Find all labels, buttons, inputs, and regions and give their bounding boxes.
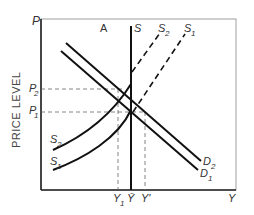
- svg-text:D: D: [200, 167, 208, 179]
- svg-text:1: 1: [208, 174, 212, 183]
- svg-text:D: D: [203, 155, 211, 167]
- long-run-supply-label: S: [134, 22, 142, 34]
- svg-text:2: 2: [33, 89, 39, 98]
- p1-label: P 1: [29, 104, 38, 120]
- aggregate-supply-demand-diagram: P A S S 2 S 1 S 2 S 1 D 2 D 1 P 2 P 1 Y …: [0, 0, 254, 215]
- demand-curve-d1: [61, 51, 198, 170]
- svg-text:1: 1: [120, 199, 124, 208]
- svg-text:2: 2: [210, 162, 216, 171]
- svg-text:1: 1: [191, 29, 195, 38]
- supply-curve-s1-dashed: [133, 34, 185, 112]
- yprime-label: Y': [141, 192, 151, 204]
- supply-2-top-label: S 2: [158, 22, 170, 38]
- svg-text:2: 2: [164, 29, 170, 38]
- supply-curve-s2-solid: [53, 84, 131, 150]
- svg-text:1: 1: [34, 111, 38, 120]
- supply-curve-s2-dashed: [132, 33, 160, 72]
- y-axis-title: PRICE LEVEL: [10, 72, 22, 148]
- ybar-label: Ȳ: [127, 192, 135, 204]
- supply-curve-s1-solid: [53, 110, 131, 170]
- svg-text:2: 2: [56, 140, 62, 149]
- demand-curve-d2: [66, 43, 201, 161]
- supply-2-bottom-label: S 2: [50, 133, 62, 149]
- svg-text:1: 1: [57, 162, 61, 171]
- p2-label: P 2: [29, 82, 39, 98]
- y1-label: Y 1: [113, 192, 124, 208]
- y-axis-symbol: P: [32, 14, 40, 28]
- x-axis-symbol: Y: [228, 192, 236, 204]
- supply-1-top-label: S 1: [184, 22, 195, 38]
- panel-label: A: [100, 22, 108, 34]
